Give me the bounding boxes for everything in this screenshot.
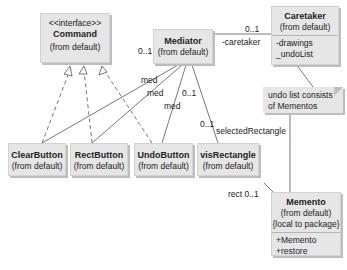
caretaker-attr-drawings: -drawings [276, 38, 334, 49]
caretaker-attr-undolist: _undoList [276, 49, 334, 60]
rectbutton-name: RectButton [71, 150, 127, 161]
class-caretaker[interactable]: Caretaker (from default) -drawings _undo… [271, 6, 339, 65]
command-stereotype: <<interface>> [41, 18, 109, 29]
memento-op-restore: +restore [276, 246, 336, 257]
label-mediator-multiplicity: 0..1 [138, 46, 152, 56]
class-command[interactable]: <<interface>> Command (from default) [40, 13, 110, 63]
command-name: Command [41, 29, 109, 40]
caretaker-attributes: -drawings _undoList [272, 35, 338, 62]
uml-diagram: <<interface>> Command (from default) Med… [0, 0, 347, 270]
class-memento[interactable]: Memento (from default) {local to package… [271, 192, 341, 256]
undobutton-name: UndoButton [135, 150, 192, 161]
mediator-name: Mediator [154, 36, 212, 47]
memento-op-constructor: +Memento [276, 235, 336, 246]
label-selrect-multiplicity: 0..1 [200, 119, 214, 129]
caretaker-name: Caretaker [272, 11, 338, 22]
label-med-2: med [147, 88, 164, 98]
undobutton-package: (from default) [135, 161, 192, 172]
rectbutton-package: (from default) [71, 161, 127, 172]
label-med-1: med [141, 75, 158, 85]
note-fold-icon [334, 87, 343, 96]
note-line-2: of Mementos [268, 101, 338, 112]
caretaker-package: (from default) [272, 22, 338, 33]
class-clearbutton[interactable]: ClearButton (from default) [8, 143, 66, 176]
label-rect-role: rect 0..1 [228, 189, 259, 199]
label-caretaker-role: -caretaker [222, 37, 260, 47]
class-undobutton[interactable]: UndoButton (from default) [134, 143, 193, 176]
note-line-1: undo list consists [268, 90, 338, 101]
mediator-package: (from default) [154, 47, 212, 58]
memento-operations: +Memento +restore [272, 232, 340, 259]
class-rectbutton[interactable]: RectButton (from default) [70, 143, 128, 176]
label-caretaker-multiplicity: 0..1 [245, 24, 259, 34]
label-selrect-role: selectedRectangle [216, 126, 286, 136]
clearbutton-package: (from default) [9, 161, 65, 172]
visrectangle-name: visRectangle [198, 150, 258, 161]
clearbutton-name: ClearButton [9, 150, 65, 161]
class-mediator[interactable]: Mediator (from default) [153, 29, 213, 64]
memento-visibility: {local to package} [272, 219, 340, 230]
class-visrectangle[interactable]: visRectangle (from default) [197, 143, 259, 176]
label-med-multiplicity: 0..1 [182, 88, 196, 98]
label-med-3: med [164, 101, 181, 111]
command-package: (from default) [41, 42, 109, 53]
note-undo-list: undo list consists of Mementos [263, 87, 343, 113]
memento-package: (from default) [272, 208, 340, 219]
memento-name: Memento [272, 197, 340, 208]
visrectangle-package: (from default) [198, 161, 258, 172]
